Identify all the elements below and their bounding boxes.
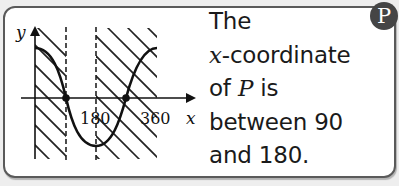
graph: y x 180 360: [0, 0, 200, 186]
point-p-badge: P: [370, 2, 398, 30]
shaded-region-right: [60, 0, 200, 186]
point-p: [62, 94, 70, 102]
y-axis-arrow-icon: [30, 26, 40, 36]
tick-label-360: 360: [140, 109, 171, 128]
x-axis-arrow-icon: [186, 93, 196, 103]
statement-line-3: of P is: [209, 72, 379, 106]
statement-line-5: and 180.: [209, 139, 379, 173]
statement-text: The x-coordinate of P is between 90 and …: [209, 5, 379, 173]
point-root-2: [122, 94, 130, 102]
y-axis-label: y: [15, 22, 26, 42]
tick-label-180: 180: [80, 109, 111, 128]
statement-line-4: between 90: [209, 106, 379, 140]
statement-line-2: x-coordinate: [209, 39, 379, 73]
x-axis-label: x: [186, 108, 196, 128]
statement-line-1: The: [209, 5, 379, 39]
